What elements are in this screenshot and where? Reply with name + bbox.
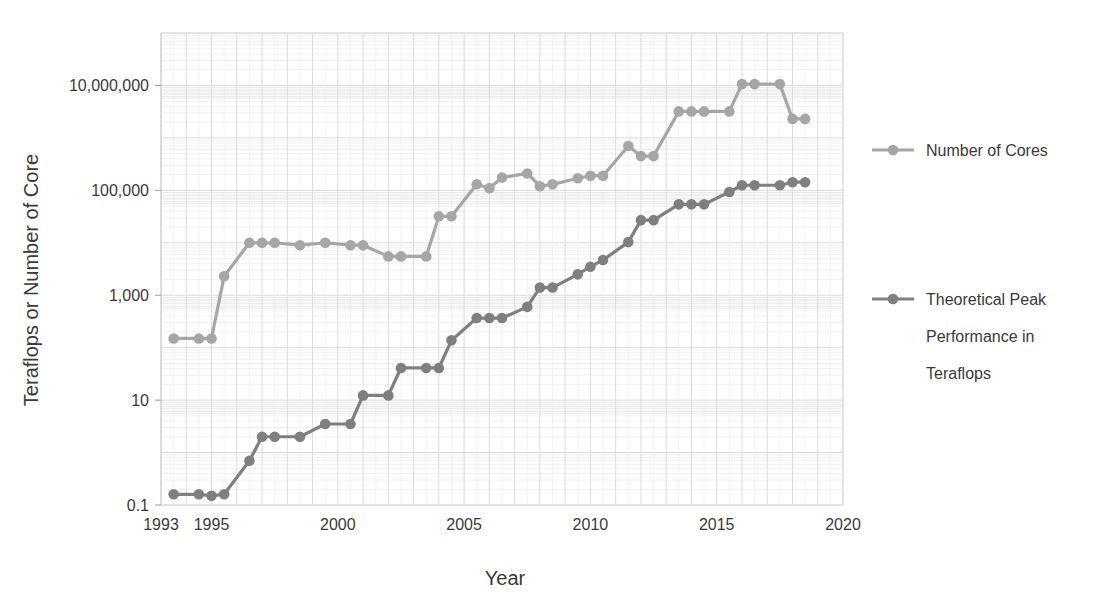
y-tick-label: 10 (131, 392, 149, 409)
data-point (674, 106, 685, 117)
y-tick-label: 100,000 (91, 182, 149, 199)
supercomputer-trends-chart: 0.1101,000100,00010,000,000 199319952000… (0, 0, 1098, 605)
x-axis-title: Year (485, 567, 526, 589)
data-point (522, 302, 533, 313)
data-point (421, 363, 432, 374)
data-point (636, 151, 647, 162)
y-tick-label: 10,000,000 (69, 77, 149, 94)
data-point (257, 431, 268, 442)
data-point (295, 240, 306, 251)
data-point (699, 106, 710, 117)
data-point (168, 333, 179, 344)
data-point (168, 489, 179, 500)
data-point (547, 179, 558, 190)
data-point (383, 251, 394, 262)
data-point (686, 199, 697, 210)
x-tick-label: 2005 (446, 516, 482, 533)
data-point (724, 187, 735, 198)
data-point (320, 419, 331, 430)
data-point (471, 313, 482, 324)
data-point (585, 170, 596, 181)
x-tick-label: 2010 (573, 516, 609, 533)
data-point (598, 170, 609, 181)
data-point (206, 490, 217, 501)
data-point (749, 79, 760, 90)
data-point (219, 489, 230, 500)
data-point (194, 333, 205, 344)
data-point (434, 363, 445, 374)
legend-label: Performance in (926, 328, 1035, 345)
y-tick-label: 1,000 (109, 287, 149, 304)
data-point (648, 151, 659, 162)
data-point (471, 179, 482, 190)
data-point (572, 173, 583, 184)
legend-label: Teraflops (926, 365, 991, 382)
data-point (244, 237, 255, 248)
data-point (749, 180, 760, 191)
data-point (383, 390, 394, 401)
data-point (623, 237, 634, 248)
data-point (674, 199, 685, 210)
x-tick-label: 1995 (194, 516, 230, 533)
legend-marker (888, 294, 899, 305)
data-point (800, 114, 811, 125)
legend-label: Number of Cores (926, 142, 1048, 159)
data-point (320, 237, 331, 248)
data-point (345, 419, 356, 430)
data-point (295, 431, 306, 442)
data-point (434, 211, 445, 222)
data-point (421, 251, 432, 262)
data-point (244, 455, 255, 466)
data-point (446, 211, 457, 222)
data-point (219, 271, 230, 282)
x-tick-label: 2015 (699, 516, 735, 533)
data-point (497, 313, 508, 324)
data-point (522, 168, 533, 179)
data-point (257, 237, 268, 248)
data-point (699, 199, 710, 210)
data-point (396, 251, 407, 262)
legend-marker (888, 145, 899, 156)
data-point (484, 183, 495, 194)
data-point (206, 333, 217, 344)
data-point (636, 215, 647, 226)
data-point (358, 390, 369, 401)
y-tick-label: 0.1 (127, 497, 149, 514)
data-point (737, 79, 748, 90)
x-tick-label: 1993 (143, 516, 179, 533)
data-point (724, 106, 735, 117)
data-point (396, 363, 407, 374)
data-point (787, 114, 798, 125)
data-point (535, 181, 546, 192)
data-point (547, 282, 558, 293)
data-point (194, 489, 205, 500)
data-point (345, 240, 356, 251)
data-point (497, 172, 508, 183)
x-tick-label: 2000 (320, 516, 356, 533)
data-point (535, 282, 546, 293)
data-point (572, 269, 583, 280)
y-axis-title: Teraflops or Number of Core (20, 154, 42, 406)
data-point (585, 261, 596, 272)
data-point (446, 335, 457, 346)
x-tick-label: 2020 (825, 516, 861, 533)
data-point (787, 177, 798, 188)
data-point (358, 240, 369, 251)
legend-label: Theoretical Peak (926, 291, 1047, 308)
data-point (737, 180, 748, 191)
data-point (686, 106, 697, 117)
data-point (598, 255, 609, 266)
data-point (775, 180, 786, 191)
data-point (623, 141, 634, 152)
data-point (775, 79, 786, 90)
data-point (269, 237, 280, 248)
chart-figure: 0.1101,000100,00010,000,000 199319952000… (0, 0, 1098, 605)
data-point (269, 431, 280, 442)
data-point (648, 215, 659, 226)
data-point (800, 177, 811, 188)
data-point (484, 313, 495, 324)
